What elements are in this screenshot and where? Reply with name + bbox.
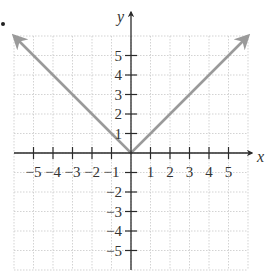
y-tick-label: 1: [115, 126, 123, 142]
graph-canvas: −5−4−3−2−112345−5−4−3−212345 x y: [0, 0, 270, 275]
y-axis-label: y: [115, 8, 125, 26]
y-tick-label: 4: [115, 67, 123, 83]
x-tick-label: 2: [166, 164, 174, 180]
y-tick-label: 2: [115, 106, 123, 122]
x-tick-label: 1: [147, 164, 155, 180]
y-tick-label: −4: [106, 223, 122, 239]
x-tick-label: −3: [65, 164, 81, 180]
x-tick-label: 5: [225, 164, 233, 180]
x-axis-label: x: [256, 148, 264, 165]
y-tick-label: −5: [106, 243, 122, 259]
y-tick-label: −2: [106, 184, 122, 200]
x-tick-label: 4: [205, 164, 213, 180]
y-tick-label: 5: [115, 48, 123, 64]
x-tick-label: −4: [45, 164, 61, 180]
x-tick-label: 3: [186, 164, 194, 180]
y-tick-label: 3: [115, 87, 123, 103]
x-tick-label: −1: [104, 164, 120, 180]
y-tick-label: −3: [106, 204, 122, 220]
x-tick-label: −2: [84, 164, 100, 180]
x-tick-label: −5: [26, 164, 42, 180]
bullet-marker: [1, 22, 5, 26]
